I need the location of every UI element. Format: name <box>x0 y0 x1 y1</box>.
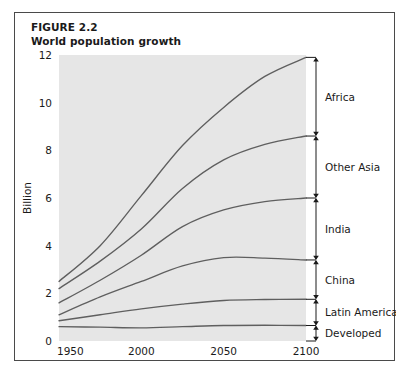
y-tick-label: 0 <box>45 335 52 347</box>
region-label-africa: Africa <box>325 91 355 103</box>
arrowhead-up-icon <box>313 260 319 264</box>
y-tick-label: 4 <box>45 240 52 252</box>
region-label-developed: Developed <box>325 327 381 339</box>
y-axis-tick-labels: 024681012 <box>39 49 53 347</box>
arrowhead-up-icon <box>313 57 319 61</box>
y-tick-label: 10 <box>39 97 52 109</box>
x-tick-label: 2100 <box>293 345 320 357</box>
arrowhead-up-icon <box>313 136 319 140</box>
region-label-latin-america: Latin America <box>325 306 396 318</box>
arrowhead-up-icon <box>313 198 319 202</box>
y-tick-label: 6 <box>45 192 52 204</box>
figure-box: FIGURE 2.2 World population growth 02468… <box>14 12 395 361</box>
x-axis-tick-labels: 1950200020502100 <box>57 345 319 357</box>
x-tick-label: 2000 <box>128 345 155 357</box>
arrowhead-down-icon <box>313 132 319 136</box>
arrowhead-down-icon <box>313 295 319 299</box>
y-tick-label: 2 <box>45 287 52 299</box>
arrowhead-down-icon <box>313 321 319 325</box>
x-tick-label: 1950 <box>57 345 84 357</box>
region-bracket-group <box>306 57 319 341</box>
arrowhead-up-icon <box>313 326 319 330</box>
region-label-china: China <box>325 274 355 286</box>
arrowhead-down-icon <box>313 337 319 341</box>
y-tick-label: 12 <box>39 49 52 61</box>
x-tick-label: 2050 <box>210 345 237 357</box>
region-label-india: India <box>325 223 351 235</box>
y-tick-label: 8 <box>45 144 52 156</box>
arrowhead-down-icon <box>313 256 319 260</box>
population-growth-chart: 024681012 1950200020502100 Billion Afric… <box>15 13 396 362</box>
region-label-other-asia: Other Asia <box>325 161 380 173</box>
arrowhead-down-icon <box>313 194 319 198</box>
y-axis-title: Billion <box>21 182 33 214</box>
region-label-group: AfricaOther AsiaIndiaChinaLatin AmericaD… <box>325 91 396 340</box>
arrowhead-up-icon <box>313 299 319 303</box>
